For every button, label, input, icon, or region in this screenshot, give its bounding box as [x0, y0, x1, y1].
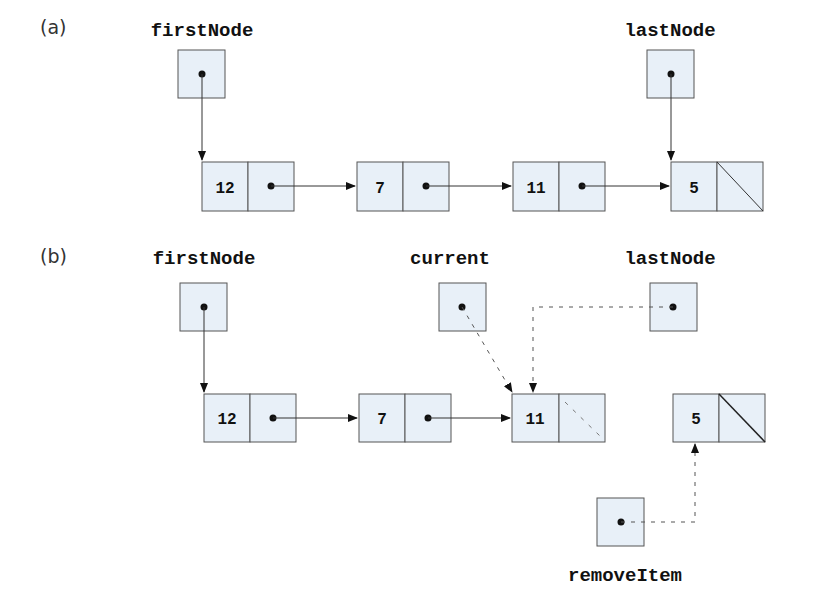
svg-text:12: 12 [217, 411, 236, 429]
part-a-label: (a) [40, 16, 66, 38]
svg-text:11: 11 [526, 180, 545, 198]
svg-text:7: 7 [375, 180, 385, 198]
first-node-label-b: firstNode [153, 248, 256, 270]
node-12-a: 12 [202, 162, 355, 211]
first-node-label-a: firstNode [151, 20, 254, 42]
svg-text:7: 7 [377, 411, 387, 429]
node-5-a: 5 [671, 162, 763, 211]
node-12-b: 12 [204, 394, 357, 442]
last-node-pointer-a [647, 50, 694, 160]
node-11-b: 11 [512, 394, 605, 442]
svg-text:12: 12 [215, 180, 234, 198]
first-node-pointer-a [178, 50, 225, 160]
first-node-pointer-b [180, 283, 227, 392]
remove-item-pointer [597, 444, 695, 546]
last-node-label-b: lastNode [624, 248, 715, 270]
last-node-pointer-b [533, 283, 697, 392]
svg-text:5: 5 [691, 411, 701, 429]
part-b-label: (b) [40, 245, 67, 267]
last-node-label-a: lastNode [624, 20, 715, 42]
current-label: current [410, 248, 490, 270]
node-5-b: 5 [673, 394, 765, 442]
node-7-b: 7 [359, 394, 510, 442]
linked-list-diagram: (a) firstNode lastNode 12 7 11 5 [0, 0, 822, 608]
node-11-a: 11 [513, 162, 669, 211]
node-7-a: 7 [357, 162, 511, 211]
svg-text:5: 5 [689, 180, 699, 198]
current-pointer [439, 283, 512, 392]
remove-item-label: removeItem [568, 565, 682, 587]
svg-text:11: 11 [525, 411, 544, 429]
